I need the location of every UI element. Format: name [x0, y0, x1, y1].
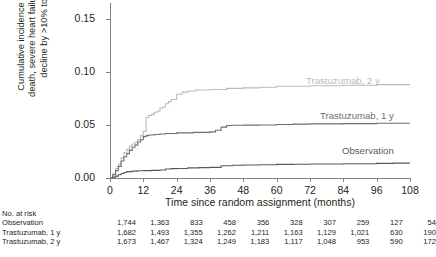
risk-cell: 259 [335, 218, 369, 227]
curve-observation [110, 163, 410, 178]
y-axis-label-line-1: Cumulative incidence of cardiac [16, 0, 27, 91]
risk-cell: 1,363 [135, 218, 169, 227]
risk-cell: 833 [169, 218, 203, 227]
x-tick-6 [310, 178, 311, 182]
risk-cell: 1,493 [135, 228, 169, 237]
x-tick-2 [177, 178, 178, 182]
y-axis-label-line-3: decline by >10% to <50% [39, 0, 50, 78]
x-tick-3 [210, 178, 211, 182]
risk-cell: 1,117 [269, 237, 303, 246]
risk-cell: 630 [369, 228, 403, 237]
x-tick-label-8: 96 [362, 184, 392, 196]
x-tick-9 [410, 178, 411, 182]
risk-cell: 190 [402, 228, 436, 237]
x-tick-8 [377, 178, 378, 182]
risk-cell: 1,048 [302, 237, 336, 246]
x-tick-label-6: 72 [295, 184, 325, 196]
risk-cell: 1,673 [102, 237, 136, 246]
risk-cell: 458 [202, 218, 236, 227]
risk-cell: 1,129 [302, 228, 336, 237]
risk-cell: 127 [369, 218, 403, 227]
risk-table-row: Trastuzumab, 2 y1,6731,4671,3241,2491,18… [2, 237, 420, 247]
risk-cell: 1,682 [102, 228, 136, 237]
risk-cell: 54 [402, 218, 436, 227]
risk-cell: 1,262 [202, 228, 236, 237]
series-label-trastuzumab-1-y: Trastuzumab, 1 y [320, 110, 394, 121]
risk-table-title: No. at risk [2, 209, 36, 218]
risk-cell: 328 [269, 218, 303, 227]
risk-cell: 1,467 [135, 237, 169, 246]
series-label-trastuzumab-2-y: Trastuzumab, 2 y [306, 75, 380, 86]
x-axis-line [110, 178, 410, 179]
risk-cell: 590 [369, 237, 403, 246]
y-axis-label: Cumulative incidence of cardiac death, s… [16, 0, 50, 111]
x-tick-4 [243, 178, 244, 182]
x-tick-label-5: 60 [262, 184, 292, 196]
risk-cell: 1,211 [235, 228, 269, 237]
risk-cell: 1,744 [102, 218, 136, 227]
y-tick-label-2: 0.10 [55, 65, 95, 77]
risk-cell: 1,163 [269, 228, 303, 237]
risk-cell: 307 [302, 218, 336, 227]
risk-row-label: Observation [2, 218, 43, 227]
risk-cell: 1,021 [335, 228, 369, 237]
risk-row-label: Trastuzumab, 1 y [2, 228, 60, 237]
x-tick-label-4: 48 [228, 184, 258, 196]
y-axis-label-line-2: death, severe heart failure or LVEF [27, 0, 38, 97]
x-tick-label-7: 84 [328, 184, 358, 196]
risk-cell: 1,183 [235, 237, 269, 246]
x-tick-7 [343, 178, 344, 182]
x-tick-0 [110, 178, 111, 182]
x-tick-5 [277, 178, 278, 182]
risk-cell: 1,249 [202, 237, 236, 246]
x-tick-1 [143, 178, 144, 182]
x-tick-label-2: 24 [162, 184, 192, 196]
risk-cell: 1,324 [169, 237, 203, 246]
x-tick-label-0: 0 [95, 184, 125, 196]
risk-row-label: Trastuzumab, 2 y [2, 237, 60, 246]
x-tick-label-1: 12 [128, 184, 158, 196]
risk-table-row: Trastuzumab, 1 y1,6821,4931,3551,2621,21… [2, 228, 420, 238]
x-tick-label-3: 36 [195, 184, 225, 196]
risk-cell: 172 [402, 237, 436, 246]
risk-cell: 356 [235, 218, 269, 227]
y-tick-label-0: 0.00 [55, 171, 95, 183]
y-tick-label-3: 0.15 [55, 12, 95, 24]
risk-cell: 1,355 [169, 228, 203, 237]
plot-area: 0.000.050.100.15 01224364860728496108 Tr… [110, 3, 410, 178]
x-axis-label: Time since random assignment (months) [110, 196, 410, 208]
y-tick-label-1: 0.05 [55, 118, 95, 130]
risk-cell: 953 [335, 237, 369, 246]
series-label-observation: Observation [342, 145, 394, 156]
x-tick-label-9: 108 [395, 184, 425, 196]
risk-table-row: Observation1,7441,3638334583563283072591… [2, 218, 420, 228]
